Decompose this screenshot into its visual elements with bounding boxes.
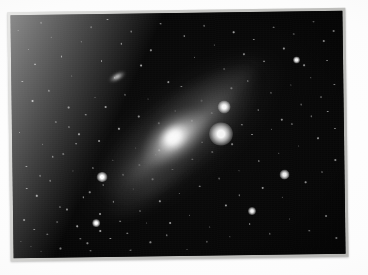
page-root <box>0 0 368 275</box>
bright-star <box>92 219 100 227</box>
photo-image-area <box>10 11 345 258</box>
photo-print-frame[interactable] <box>7 8 348 261</box>
bright-star <box>209 122 233 146</box>
bright-star <box>97 172 108 183</box>
galaxy-object <box>10 11 345 258</box>
